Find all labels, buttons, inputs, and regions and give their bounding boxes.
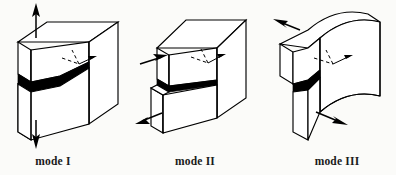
mode-3-label: mode III — [264, 156, 396, 168]
mode-2-upper-front-face — [169, 48, 217, 86]
mode-3-right-curved-face — [320, 20, 380, 112]
mode-2-lower-front-face — [163, 85, 217, 133]
fracture-modes-figure: mode I — [0, 0, 396, 175]
mode-1-illustration — [0, 0, 132, 150]
panel-mode-3: mode III — [264, 0, 396, 175]
mode-3-lower-left-face — [293, 90, 308, 140]
mode-3-upper-left-face — [280, 44, 293, 84]
mode-3-arrow-right — [316, 112, 348, 125]
mode-1-label: mode I — [0, 156, 132, 168]
mode-2-lower-left-face — [151, 88, 163, 133]
mode-3-arrow-right-head — [332, 116, 348, 125]
mode-1-lower-left-face — [18, 84, 31, 140]
mode-2-illustration — [132, 0, 264, 150]
mode-2-label: mode II — [132, 156, 264, 168]
panel-mode-2: mode II — [132, 0, 264, 175]
mode-3-illustration — [264, 0, 396, 150]
mode-3-arrow-left — [273, 19, 300, 30]
panel-mode-1: mode I — [0, 0, 132, 175]
